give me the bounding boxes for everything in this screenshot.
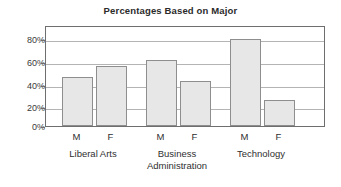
y-tick-label-80: 80%: [5, 35, 45, 45]
x-group-label-technology: Technology: [237, 148, 285, 160]
bar-business-administration-f: [180, 81, 211, 126]
y-tick-label-20: 20%: [5, 103, 45, 113]
plot-area: [45, 26, 325, 127]
plot-inner: [46, 27, 324, 126]
gridline-60: [46, 64, 324, 65]
bar-liberal-arts-f: [96, 66, 127, 126]
chart-title: Percentages Based on Major: [0, 5, 341, 16]
x-group-label-business-administration: Business Administration: [147, 148, 207, 172]
bar-liberal-arts-m: [62, 77, 93, 126]
y-tick-mark-0: [41, 127, 45, 128]
x-tick-label-technology-f: F: [276, 131, 282, 142]
bar-chart: Percentages Based on Major 80% 60% 40% 2…: [0, 0, 341, 187]
bar-technology-f: [264, 100, 295, 126]
x-tick-label-business-administration-f: F: [192, 131, 198, 142]
x-tick-label-liberal-arts-f: F: [108, 131, 114, 142]
x-tick-label-liberal-arts-m: M: [73, 131, 81, 142]
bar-technology-m: [230, 39, 261, 126]
x-tick-label-technology-m: M: [241, 131, 249, 142]
gridline-80: [46, 41, 324, 42]
y-tick-label-60: 60%: [5, 58, 45, 68]
y-tick-label-0: 0%: [5, 122, 45, 132]
y-tick-label-40: 40%: [5, 81, 45, 91]
x-group-label-liberal-arts: Liberal Arts: [69, 148, 117, 160]
y-axis: 80% 60% 40% 20% 0%: [0, 26, 45, 127]
bar-business-administration-m: [146, 60, 177, 126]
x-tick-label-business-administration-m: M: [157, 131, 165, 142]
